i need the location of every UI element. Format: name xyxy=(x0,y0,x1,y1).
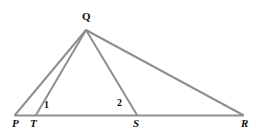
segment-QP xyxy=(15,30,86,115)
geometry-diagram: P T S R Q 1 2 xyxy=(0,0,263,137)
angle-label-1: 1 xyxy=(44,100,49,110)
vertex-label-T: T xyxy=(30,118,37,129)
geometry-canvas xyxy=(0,0,263,137)
vertex-label-R: R xyxy=(241,118,248,129)
vertex-label-Q: Q xyxy=(82,11,91,22)
vertex-label-S: S xyxy=(133,118,139,129)
angle-label-2: 2 xyxy=(117,98,122,108)
vertex-label-P: P xyxy=(12,118,19,129)
segment-QR xyxy=(86,30,243,115)
